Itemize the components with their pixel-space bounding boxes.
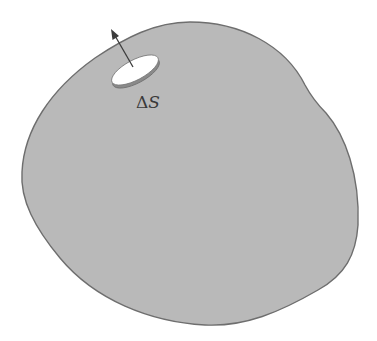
closed-surface-diagram: ΔS [0, 0, 377, 341]
closed-surface [22, 22, 358, 325]
diagram-canvas [0, 0, 377, 341]
surface-element-label: ΔS [136, 92, 160, 112]
surface-variable: S [148, 92, 160, 112]
delta-symbol: Δ [136, 92, 148, 112]
normal-vector-arrowhead [111, 29, 119, 40]
